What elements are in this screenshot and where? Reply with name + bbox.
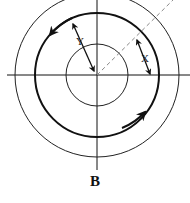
dashed-radial-line	[97, 0, 175, 75]
diagram-caption: B	[0, 173, 190, 190]
y-label: Y	[76, 35, 84, 47]
y-dimension-arrow	[73, 24, 94, 71]
direction-arrow-upper-left	[50, 18, 72, 35]
x-label: X	[141, 52, 149, 64]
